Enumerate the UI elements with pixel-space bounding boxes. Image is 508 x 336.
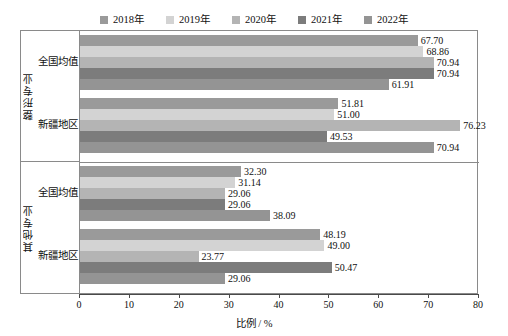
bar-0-2[interactable]	[80, 57, 434, 68]
legend-label: 2020年	[245, 15, 276, 26]
bar-value-label: 51.81	[338, 99, 364, 109]
bar-2-2[interactable]	[80, 188, 225, 199]
x-tick	[428, 294, 429, 298]
bar-value-label: 49.00	[324, 241, 350, 251]
bar-value-label: 61.91	[389, 80, 415, 90]
bar-value-label: 70.94	[434, 143, 460, 153]
legend-label: 2021年	[311, 15, 342, 26]
bar-value-label: 29.06	[225, 274, 251, 284]
group-label-top-text: 整形专业	[21, 72, 36, 120]
bar-value-label: 23.77	[199, 252, 225, 262]
bar-value-label: 49.53	[327, 132, 353, 142]
bar-row: 70.94	[80, 68, 479, 79]
bar-0-1[interactable]	[80, 46, 423, 57]
bar-row: 50.47	[80, 262, 479, 273]
x-tick-label: 60	[373, 299, 383, 310]
bar-value-label: 48.19	[320, 230, 346, 240]
legend-label: 2022年	[377, 15, 408, 26]
bar-3-1[interactable]	[80, 240, 324, 251]
category-label-2: 全国均值	[37, 186, 79, 200]
x-tick	[328, 294, 329, 298]
x-tick-label: 50	[323, 299, 333, 310]
x-tick	[229, 294, 230, 298]
bar-row: 61.91	[80, 79, 479, 90]
legend-swatch-icon	[232, 16, 240, 24]
bar-2-0[interactable]	[80, 166, 241, 177]
legend-swatch-icon	[298, 16, 306, 24]
bar-2-1[interactable]	[80, 177, 235, 188]
legend-label: 2018年	[113, 15, 144, 26]
bar-row: 76.23	[80, 120, 479, 131]
bar-chart: 2018年2019年2020年2021年2022年 整形专业 其他专业 全国均值…	[0, 0, 508, 336]
x-tick-label: 30	[224, 299, 234, 310]
bar-row: 48.19	[80, 229, 479, 240]
legend-swatch-icon	[364, 16, 372, 24]
bar-row: 70.94	[80, 142, 479, 153]
category-label-0: 全国均值	[37, 55, 79, 69]
bar-row: 49.00	[80, 240, 479, 251]
bar-value-label: 29.06	[225, 189, 251, 199]
bar-value-label: 38.09	[270, 211, 296, 221]
x-tick	[79, 294, 80, 298]
bar-row: 49.53	[80, 131, 479, 142]
bar-2-3[interactable]	[80, 199, 225, 210]
category-label-1: 新疆地区	[37, 118, 79, 132]
bar-value-label: 70.94	[434, 69, 460, 79]
group-label-bottom-text: 其他专业	[21, 204, 36, 252]
x-tick-label: 80	[473, 299, 483, 310]
bar-1-1[interactable]	[80, 109, 334, 120]
bar-1-4[interactable]	[80, 142, 434, 153]
bar-3-0[interactable]	[80, 229, 320, 240]
bar-3-4[interactable]	[80, 273, 225, 284]
x-tick	[129, 294, 130, 298]
chart-legend: 2018年2019年2020年2021年2022年	[0, 12, 508, 28]
bar-row: 29.06	[80, 199, 479, 210]
bar-0-0[interactable]	[80, 35, 418, 46]
bar-value-label: 51.00	[334, 110, 360, 120]
bar-0-4[interactable]	[80, 79, 389, 90]
bar-row: 29.06	[80, 273, 479, 284]
bar-value-label: 31.14	[235, 178, 261, 188]
bar-row: 32.30	[80, 166, 479, 177]
legend-swatch-icon	[166, 16, 174, 24]
bar-value-label: 76.23	[460, 121, 486, 131]
bar-value-label: 32.30	[241, 167, 267, 177]
group-label-bottom: 其他专业	[20, 162, 37, 294]
bar-2-4[interactable]	[80, 210, 270, 221]
x-tick-label: 20	[174, 299, 184, 310]
legend-item-1[interactable]: 2019年	[166, 15, 210, 26]
legend-item-4[interactable]: 2022年	[364, 15, 408, 26]
x-tick-label: 0	[77, 299, 82, 310]
bar-0-3[interactable]	[80, 68, 434, 79]
legend-label: 2019年	[179, 15, 210, 26]
bar-3-2[interactable]	[80, 251, 199, 262]
bar-value-label: 50.47	[332, 263, 358, 273]
plot-area: 67.7068.8670.9470.9461.9151.8151.0076.23…	[79, 30, 478, 294]
bar-value-label: 68.86	[423, 47, 449, 57]
bar-row: 51.00	[80, 109, 479, 120]
bar-row: 29.06	[80, 188, 479, 199]
bar-row: 23.77	[80, 251, 479, 262]
bar-3-3[interactable]	[80, 262, 332, 273]
bar-row: 51.81	[80, 98, 479, 109]
legend-item-2[interactable]: 2020年	[232, 15, 276, 26]
x-tick	[179, 294, 180, 298]
bar-row: 31.14	[80, 177, 479, 188]
bar-row: 68.86	[80, 46, 479, 57]
x-tick-label: 10	[124, 299, 134, 310]
legend-item-0[interactable]: 2018年	[100, 15, 144, 26]
bar-value-label: 29.06	[225, 200, 251, 210]
x-tick-label: 70	[423, 299, 433, 310]
x-tick	[279, 294, 280, 298]
bar-1-2[interactable]	[80, 120, 460, 131]
bar-row: 70.94	[80, 57, 479, 68]
bar-value-label: 67.70	[418, 36, 444, 46]
x-tick	[378, 294, 379, 298]
legend-item-3[interactable]: 2021年	[298, 15, 342, 26]
bar-row: 38.09	[80, 210, 479, 221]
bar-1-3[interactable]	[80, 131, 327, 142]
group-label-top: 整形专业	[20, 30, 37, 161]
bar-row: 67.70	[80, 35, 479, 46]
x-tick-label: 40	[274, 299, 284, 310]
bar-1-0[interactable]	[80, 98, 338, 109]
